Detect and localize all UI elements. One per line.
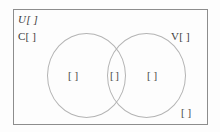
set-label-c: C[ ] <box>18 30 36 42</box>
answer-blank-v-only[interactable]: [ ] <box>147 69 157 81</box>
set-label-v: V[ ] <box>171 30 190 42</box>
venn-diagram-canvas: U[ ] C[ ] V[ ] [ ] [ ] [ ] [ ] <box>0 0 220 132</box>
answer-blank-intersection[interactable]: [ ] <box>110 69 118 81</box>
answer-blank-c-only[interactable]: [ ] <box>68 69 78 81</box>
universal-set-label: U[ ] <box>18 13 38 25</box>
answer-blank-outside[interactable]: [ ] <box>181 106 191 118</box>
